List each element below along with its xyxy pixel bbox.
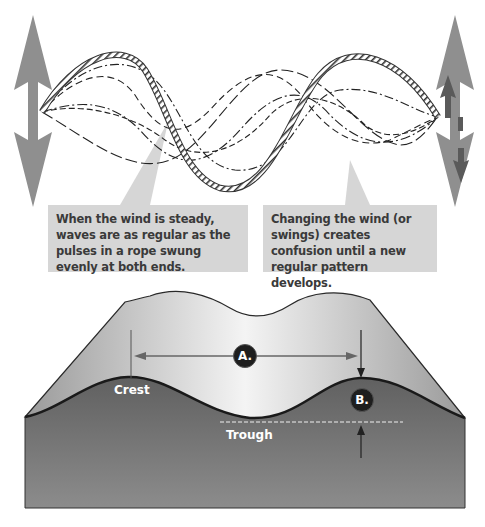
caption-changing-wind: Changing the wind (or swings) creates co…	[263, 205, 437, 272]
trough-label: Trough	[226, 428, 273, 442]
badge-b: B.	[350, 388, 374, 412]
caption-steady-wind: When the wind is steady, waves are as re…	[48, 205, 248, 272]
crest-label: Crest	[114, 383, 150, 397]
badge-a: A.	[233, 344, 257, 368]
rope-icon	[42, 55, 438, 189]
wave-dashed-lines	[42, 64, 438, 170]
caption-pointer-right	[345, 160, 370, 205]
right-double-arrow-icon	[436, 15, 474, 207]
